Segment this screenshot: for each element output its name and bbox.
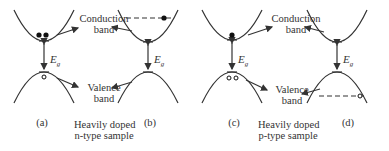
electron-icon	[43, 32, 48, 37]
hole-icon	[42, 75, 46, 79]
band-gap-label-b: Eg	[154, 53, 164, 68]
conduction-band-label-right: Conductionband	[266, 13, 326, 35]
hole-icon	[358, 94, 362, 98]
band-diagram	[0, 0, 389, 151]
panel-label-b: (b)	[138, 117, 162, 128]
band-gap-label-d: Eg	[343, 53, 353, 68]
valence-band-label-left: Valenceband	[74, 82, 134, 104]
conduction-band-label-left: Conductionband	[74, 13, 134, 35]
valence-band-c	[202, 72, 262, 103]
panel-label-a: (a)	[30, 117, 54, 128]
valence-band-label-right: Valenceband	[262, 84, 322, 106]
panel-label-d: (d)	[336, 117, 360, 128]
band-gap-label-c: Eg	[238, 53, 248, 68]
panel-label-c: (c)	[222, 117, 246, 128]
hole-icon	[227, 76, 231, 80]
electron-icon	[161, 15, 166, 20]
caption-right: Heavily dopedp-type sample	[258, 119, 318, 141]
band-gap-label-a: Eg	[50, 53, 60, 68]
electron-icon	[36, 32, 41, 37]
hole-icon	[234, 76, 238, 80]
caption-left: Heavily dopedn-type sample	[74, 119, 134, 141]
electron-icon	[229, 32, 234, 37]
